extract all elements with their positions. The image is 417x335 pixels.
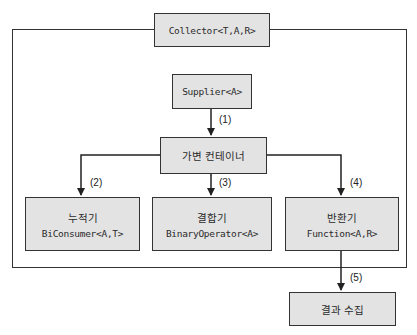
finisher-type: Function<A,R> [307,228,377,239]
collector-diagram: Collector<T,A,R> Supplier<A> 가변 컨테이너 누적기… [0,0,417,335]
step-label-4: (4) [350,177,362,188]
result-box: 결과 수집 [289,292,396,326]
arrow-container-accumulator [81,155,159,195]
arrow-container-finisher [266,155,341,195]
step-label-2: (2) [90,177,102,188]
collector-box: Collector<T,A,R> [154,13,270,47]
step-label-3: (3) [219,177,231,188]
accumulator-title: 누적기 [68,210,98,225]
combiner-title: 결합기 [197,210,227,225]
step-label-5: (5) [350,272,362,283]
finisher-title: 반환기 [327,210,357,225]
supplier-box: Supplier<A> [172,74,252,109]
accumulator-type: BiConsumer<A,T> [42,228,123,239]
container-box: 가변 컨테이너 [160,137,267,174]
accumulator-box: 누적기 BiConsumer<A,T> [25,197,140,251]
step-label-1: (1) [219,114,231,125]
finisher-box: 반환기 Function<A,R> [285,197,399,251]
collector-label: Collector<T,A,R> [169,25,256,36]
supplier-label: Supplier<A> [182,86,242,97]
result-label: 결과 수집 [321,302,364,317]
combiner-type: BinaryOperator<A> [166,228,258,239]
combiner-box: 결합기 BinaryOperator<A> [152,197,272,251]
container-label: 가변 컨테이너 [182,148,245,163]
